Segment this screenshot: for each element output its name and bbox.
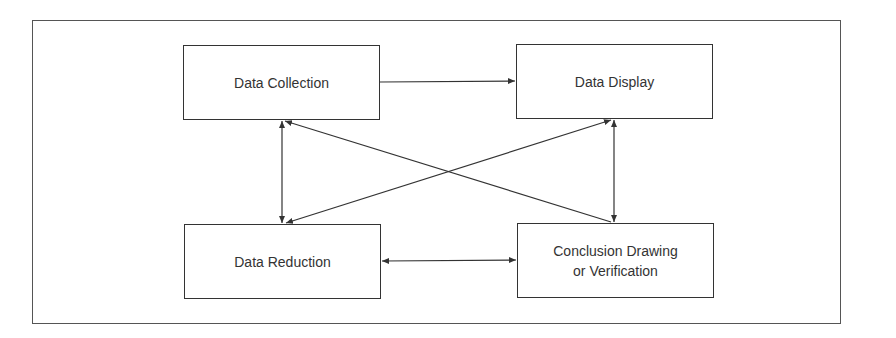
node-conclusion-drawing: Conclusion Drawing or Verification xyxy=(517,223,714,298)
edge-reduction-conclusion xyxy=(382,260,516,261)
edge-reduction-display xyxy=(286,120,611,223)
node-data-collection: Data Collection xyxy=(183,45,380,120)
edges-layer xyxy=(0,0,896,338)
node-data-display: Data Display xyxy=(516,44,713,119)
node-label: Data Display xyxy=(575,72,654,92)
node-label: Data Reduction xyxy=(234,252,331,272)
edge-collection-display xyxy=(380,81,515,82)
node-data-reduction: Data Reduction xyxy=(184,224,381,299)
node-label: Conclusion Drawing or Verification xyxy=(553,241,678,281)
node-label: Data Collection xyxy=(234,73,329,93)
